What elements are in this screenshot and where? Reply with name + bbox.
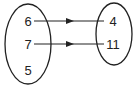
range-value: 11: [106, 37, 120, 52]
mapping-diagram: 6 7 5 4 11: [0, 0, 136, 85]
range-ellipse: [96, 3, 132, 65]
domain-value: 7: [24, 37, 31, 52]
domain-value: 5: [24, 63, 31, 78]
range-value: 4: [109, 14, 116, 29]
domain-value: 6: [24, 14, 31, 29]
